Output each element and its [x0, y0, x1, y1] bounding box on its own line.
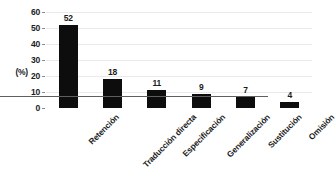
bar [103, 79, 122, 108]
gridline [46, 44, 312, 45]
y-axis-tick-mark [42, 76, 45, 77]
y-axis-tick-label: 40 [10, 40, 40, 49]
y-axis-tick-label: 0 [10, 104, 40, 113]
gridline [46, 92, 312, 93]
y-axis-tick-label: 20 [10, 72, 40, 81]
y-axis-tick-mark [42, 92, 45, 93]
x-axis-baseline [0, 96, 268, 97]
y-axis-tick-label: 50 [10, 24, 40, 33]
y-axis-tick-mark [42, 12, 45, 13]
bar-value-label: 18 [98, 68, 128, 77]
y-axis-tick-label: 30 [10, 56, 40, 65]
plot-area [46, 12, 312, 108]
gridline [46, 28, 312, 29]
bar-value-label: 4 [275, 91, 305, 100]
y-axis-tick-mark [42, 108, 45, 109]
y-axis-tick-mark [42, 60, 45, 61]
x-axis-category-label: Omisión [306, 112, 336, 142]
gridline [46, 12, 312, 13]
bar-value-label: 7 [231, 86, 261, 95]
y-axis-tick-mark [42, 28, 45, 29]
bar-value-label: 52 [53, 14, 83, 23]
gridline [46, 60, 312, 61]
y-axis-tick-label: 60 [10, 8, 40, 17]
y-axis-tick-mark [42, 44, 45, 45]
bar [280, 102, 299, 108]
bar [236, 97, 255, 108]
bar-value-label: 11 [142, 79, 172, 88]
x-axis-category-label: Generalización [225, 112, 272, 159]
bar [147, 90, 166, 108]
x-axis-category-label: Traducción directa [140, 112, 197, 169]
bar-value-label: 9 [186, 83, 216, 92]
gridline [46, 76, 312, 77]
x-axis-category-label: Retención [87, 112, 121, 146]
